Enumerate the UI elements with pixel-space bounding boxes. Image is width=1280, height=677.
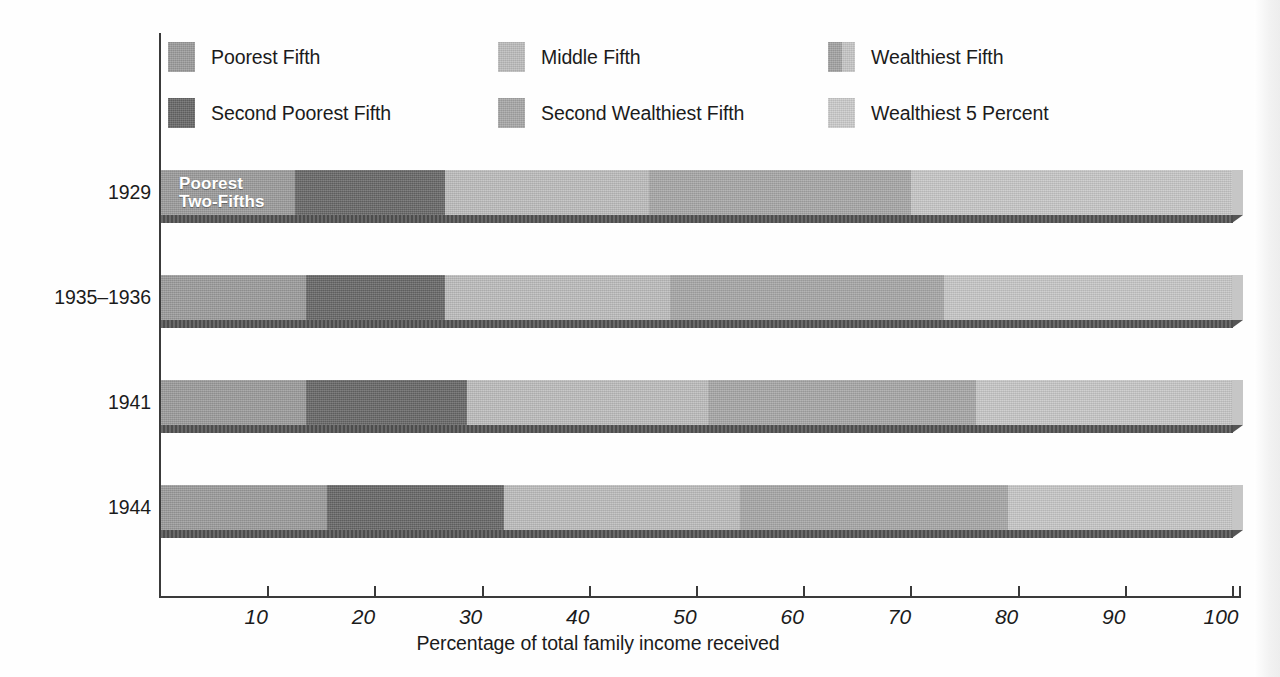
legend-item-middle-fifth[interactable]: Middle Fifth [498,40,828,74]
x-tick-10 [267,586,269,597]
x-tick-label-50: 50 [673,605,696,629]
legend-swatch-wealthiest-fifth [828,42,855,72]
x-tick-80 [1018,586,1020,597]
bar-segment-second-wealthiest-fifth[interactable] [708,380,976,425]
x-tick-label-90: 90 [1102,605,1125,629]
bar-shadow-slab [161,530,1233,538]
legend-label-poorest-fifth: Poorest Fifth [211,46,320,69]
bar-segment-middle-fifth[interactable] [504,485,740,530]
annotation-poorest-two-fifths: Poorest Two-Fifths [179,175,265,210]
x-tick-label-80: 80 [995,605,1018,629]
bar-right-bevel [1232,380,1243,433]
bar-segment-wealthiest-fifth[interactable] [944,275,1233,320]
legend-label-second-poorest-fifth: Second Poorest Fifth [211,102,391,125]
income-distribution-chart: Poorest Fifth Middle Fifth Wealthiest Fi… [0,0,1280,677]
x-tick-label-100: 100 [1203,605,1238,629]
x-tick-label-40: 40 [566,605,589,629]
legend-label-middle-fifth: Middle Fifth [541,46,641,69]
legend-label-second-wealthiest-fifth: Second Wealthiest Fifth [541,102,744,125]
x-tick-30 [482,586,484,597]
x-axis-title-text: Percentage of total family income receiv… [416,632,779,654]
x-tick-label-70: 70 [888,605,911,629]
legend-row-2: Second Poorest Fifth Second Wealthiest F… [168,96,1228,152]
legend-swatch-middle-fifth [498,42,525,72]
bar-1941[interactable] [161,380,1233,433]
legend-row-1: Poorest Fifth Middle Fifth Wealthiest Fi… [168,40,1228,96]
legend-item-wealthiest-fifth[interactable]: Wealthiest Fifth [828,40,1168,74]
x-tick-20 [374,586,376,597]
category-label-1929: 1929 [108,181,151,204]
x-tick-100 [1232,586,1234,597]
bar-1935-1936[interactable] [161,275,1233,328]
bar-body [161,170,1233,215]
bar-segment-wealthiest-fifth[interactable] [1008,485,1233,530]
x-axis-title: Percentage of total family income receiv… [0,632,1280,655]
bar-right-bevel [1232,170,1243,223]
x-tick-70 [910,586,912,597]
x-tick-90 [1125,586,1127,597]
bar-segment-second-poorest-fifth[interactable] [327,485,504,530]
bar-segment-middle-fifth[interactable] [467,380,708,425]
bar-body [161,380,1233,425]
x-axis-line [159,596,1241,598]
legend-item-wealthiest-5-percent[interactable]: Wealthiest 5 Percent [828,96,1168,130]
bar-segment-poorest-fifth[interactable] [161,380,306,425]
legend-swatch-second-wealthiest-fifth [498,98,525,128]
bar-1929[interactable] [161,170,1233,223]
legend-label-wealthiest-fifth: Wealthiest Fifth [871,46,1003,69]
category-label-1941: 1941 [108,391,151,414]
x-tick-label-20: 20 [352,605,375,629]
x-axis-end-tick [1239,586,1241,598]
category-label-1935-1936: 1935–1936 [54,286,151,309]
x-tick-label-30: 30 [459,605,482,629]
legend-label-wealthiest-5-percent: Wealthiest 5 Percent [871,102,1049,125]
bar-segment-middle-fifth[interactable] [445,275,670,320]
bar-body [161,485,1233,530]
bar-segment-wealthiest-fifth[interactable] [911,170,1233,215]
bar-segment-second-wealthiest-fifth[interactable] [649,170,912,215]
bar-segment-second-poorest-fifth[interactable] [306,275,445,320]
legend-item-second-wealthiest-fifth[interactable]: Second Wealthiest Fifth [498,96,828,130]
legend-item-second-poorest-fifth[interactable]: Second Poorest Fifth [168,96,498,130]
legend-swatch-poorest-fifth [168,42,195,72]
legend-swatch-second-poorest-fifth [168,98,195,128]
x-tick-50 [696,586,698,597]
bar-1944[interactable] [161,485,1233,538]
bar-shadow-slab [161,215,1233,223]
bar-shadow-slab [161,425,1233,433]
bar-segment-second-poorest-fifth[interactable] [295,170,445,215]
chart-legend: Poorest Fifth Middle Fifth Wealthiest Fi… [168,40,1228,152]
bar-body [161,275,1233,320]
bar-segment-poorest-fifth[interactable] [161,275,306,320]
bar-segment-middle-fifth[interactable] [445,170,649,215]
bar-right-bevel [1232,485,1243,538]
bar-segment-second-wealthiest-fifth[interactable] [670,275,943,320]
x-tick-40 [589,586,591,597]
x-tick-label-60: 60 [781,605,804,629]
legend-swatch-wealthiest-5-percent [828,98,855,128]
bar-shadow-slab [161,320,1233,328]
bar-segment-poorest-fifth[interactable] [161,485,327,530]
x-tick-label-10: 10 [245,605,268,629]
x-tick-60 [803,586,805,597]
category-label-1944: 1944 [108,496,151,519]
bar-segment-second-wealthiest-fifth[interactable] [740,485,1008,530]
bar-segment-second-poorest-fifth[interactable] [306,380,467,425]
bar-segment-wealthiest-fifth[interactable] [976,380,1233,425]
bar-right-bevel [1232,275,1243,328]
legend-item-poorest-fifth[interactable]: Poorest Fifth [168,40,498,74]
